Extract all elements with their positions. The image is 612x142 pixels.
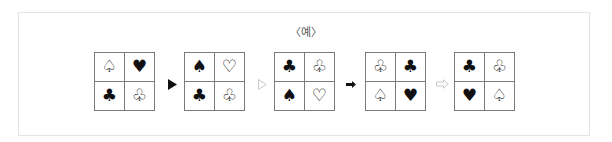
heart-outline-icon: ♡ [305,82,335,111]
heart-filled-icon: ♥ [125,53,155,82]
heart-filled-icon: ♥ [455,82,485,111]
filled-block-arrow-icon [345,74,357,94]
spade-filled-icon: ♠ [185,53,215,82]
heart-filled-icon: ♥ [396,82,426,111]
symbol-grid-5: ♣ ♧ ♥ ♤ [454,52,515,111]
heart-outline-icon: ♡ [215,53,245,82]
club-filled-icon: ♣ [455,53,485,82]
club-filled-icon: ♣ [185,82,215,111]
club-filled-icon: ♣ [275,53,305,82]
club-filled-icon: ♣ [396,53,426,82]
spade-outline-icon: ♤ [95,53,125,82]
spade-outline-icon: ♤ [366,82,396,111]
club-outline-icon: ♧ [485,53,515,82]
example-caption: 〈예〉 [0,26,612,40]
symbol-grid-2: ♠ ♡ ♣ ♧ [184,52,245,111]
spade-outline-icon: ♤ [485,82,515,111]
outline-block-arrow-icon [435,74,449,94]
outline-triangle-arrow-icon [256,74,268,94]
club-outline-icon: ♧ [305,53,335,82]
symbol-grid-1: ♤ ♥ ♣ ♧ [94,52,155,111]
club-outline-icon: ♧ [215,82,245,111]
symbol-grid-4: ♧ ♣ ♤ ♥ [365,52,426,111]
club-outline-icon: ♧ [366,53,396,82]
symbol-grid-3: ♣ ♧ ♠ ♡ [274,52,335,111]
spade-filled-icon: ♠ [275,82,305,111]
filled-triangle-arrow-icon [166,74,178,94]
club-outline-icon: ♧ [125,82,155,111]
club-filled-icon: ♣ [95,82,125,111]
